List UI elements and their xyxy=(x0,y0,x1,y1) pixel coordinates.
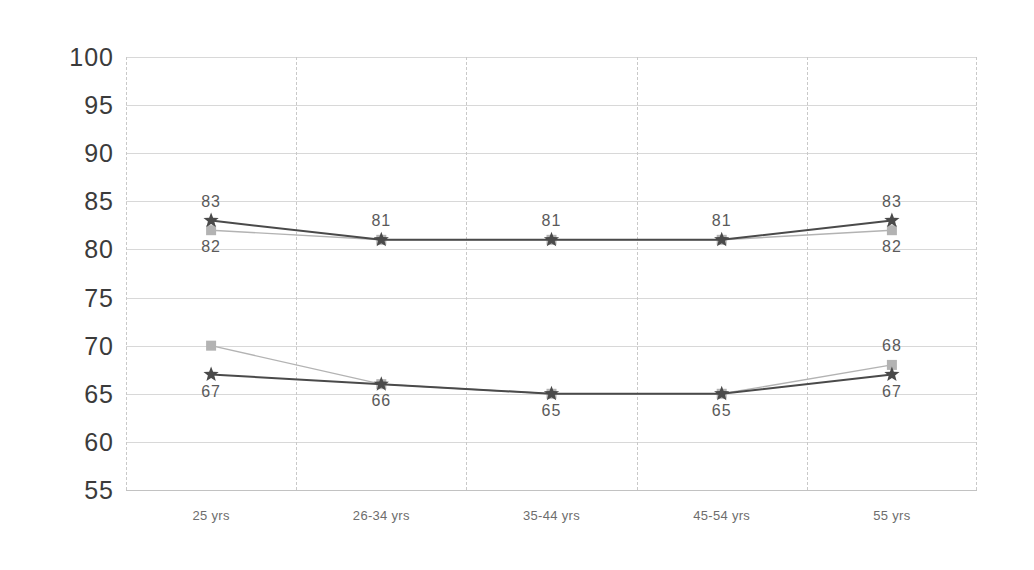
y-axis: 556065707580859095100 xyxy=(10,57,114,490)
point-value-label: 65 xyxy=(542,403,562,419)
x-tick-label: 25 yrs xyxy=(192,508,229,523)
data-point-marker xyxy=(884,213,899,227)
y-tick-label: 100 xyxy=(14,45,114,70)
y-tick-label: 80 xyxy=(14,237,114,262)
x-tick-label: 35-44 yrs xyxy=(523,508,580,523)
point-value-label: 83 xyxy=(882,194,902,210)
series-layer xyxy=(126,57,977,490)
data-point-marker xyxy=(206,341,216,351)
data-point-marker xyxy=(887,225,897,235)
point-value-label: 66 xyxy=(371,393,391,409)
y-tick-label: 85 xyxy=(14,189,114,214)
line-chart: 556065707580859095100 838181818382826766… xyxy=(0,0,1034,570)
point-value-label: 81 xyxy=(542,213,562,229)
point-value-label: 65 xyxy=(712,403,732,419)
point-value-label: 82 xyxy=(882,239,902,255)
point-value-label: 81 xyxy=(371,213,391,229)
data-point-marker xyxy=(203,213,218,227)
plot-area: 83818181838282676665656768 xyxy=(126,57,977,490)
gridline-y-55 xyxy=(126,490,977,491)
data-point-marker xyxy=(884,367,899,381)
y-tick-label: 70 xyxy=(14,333,114,358)
y-tick-label: 60 xyxy=(14,429,114,454)
data-point-marker xyxy=(206,225,216,235)
x-tick-label: 26-34 yrs xyxy=(353,508,410,523)
x-tick-label: 45-54 yrs xyxy=(693,508,750,523)
point-value-label: 67 xyxy=(201,384,221,400)
y-tick-label: 55 xyxy=(14,478,114,503)
point-value-label: 83 xyxy=(201,194,221,210)
point-value-label: 81 xyxy=(712,213,732,229)
point-value-label: 68 xyxy=(882,338,902,354)
y-tick-label: 75 xyxy=(14,285,114,310)
y-tick-label: 95 xyxy=(14,93,114,118)
x-axis: 25 yrs26-34 yrs35-44 yrs45-54 yrs55 yrs xyxy=(126,508,977,532)
data-point-marker xyxy=(203,367,218,381)
point-value-label: 82 xyxy=(201,239,221,255)
x-tick-label: 55 yrs xyxy=(873,508,910,523)
point-value-label: 67 xyxy=(882,384,902,400)
y-tick-label: 90 xyxy=(14,141,114,166)
y-tick-label: 65 xyxy=(14,381,114,406)
